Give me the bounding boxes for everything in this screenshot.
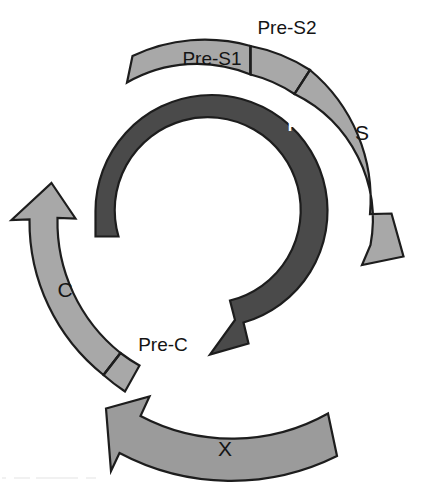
c-label: C: [57, 278, 72, 301]
s-label: S: [355, 121, 369, 144]
pre-c-label: Pre-C: [138, 334, 188, 355]
p-label: P: [288, 117, 299, 134]
surface-orf-group: [127, 40, 404, 265]
x-label: X: [218, 437, 232, 460]
genome-map-svg: P Pre-S1 Pre-S2 S C Pre-C X: [0, 0, 424, 482]
pre-s2-label: Pre-S2: [257, 17, 316, 38]
pre-s1-label: Pre-S1: [182, 48, 241, 69]
polymerase-orf-group: P: [96, 95, 328, 354]
core-orf-group: [12, 183, 140, 392]
hbv-genome-diagram: P Pre-S1 Pre-S2 S C Pre-C X: [0, 0, 424, 482]
scan-artifacts: [2, 477, 96, 479]
